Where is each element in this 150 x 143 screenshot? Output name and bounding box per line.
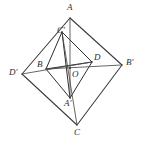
geometry-figure: AB'CD'C'DA'BO <box>0 0 150 143</box>
outer-edge-Bp-C <box>77 65 122 125</box>
inner-edge-Ap-B <box>46 69 70 98</box>
point-label-B: B <box>37 60 43 69</box>
point-label-Ap: A' <box>64 99 71 108</box>
vertex-dot-O <box>69 67 71 69</box>
vertex-dot-layer <box>69 67 71 69</box>
point-label-D: D <box>94 53 101 62</box>
point-label-O: O <box>72 70 79 79</box>
point-label-Dp: D' <box>9 68 17 77</box>
inner-edge-B-Cp <box>46 32 62 69</box>
point-label-A: A <box>67 3 73 12</box>
point-label-Bp: B' <box>126 58 133 67</box>
point-label-Cp: C' <box>57 26 65 35</box>
segment-D-Dp <box>22 62 92 74</box>
point-label-C: C <box>74 128 80 137</box>
